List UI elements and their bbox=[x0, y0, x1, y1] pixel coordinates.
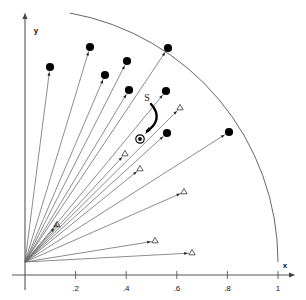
data-point-filled-circle-5 bbox=[164, 44, 172, 52]
polar-ray-figure: .2.4.6.81 x y S A bbox=[0, 0, 306, 300]
ray-line bbox=[25, 94, 127, 262]
y-axis-label: y bbox=[34, 26, 39, 35]
ray-arrowhead bbox=[184, 252, 187, 255]
x-tick-label-3: .8 bbox=[224, 284, 231, 293]
data-point-open-triangle-4 bbox=[181, 188, 187, 193]
x-tick-label-1: .4 bbox=[123, 284, 130, 293]
data-point-open-triangle-3 bbox=[177, 104, 183, 109]
markers-layer bbox=[46, 43, 233, 255]
ray-line bbox=[25, 193, 181, 262]
data-point-filled-circle-1 bbox=[86, 43, 94, 51]
data-point-filled-circle-8 bbox=[225, 128, 233, 136]
rays-layer bbox=[25, 51, 225, 262]
ray-line bbox=[25, 253, 189, 262]
ray-line bbox=[25, 171, 138, 262]
data-point-filled-circle-2 bbox=[101, 71, 109, 79]
ray-line bbox=[25, 65, 125, 262]
ray-arrowhead bbox=[221, 135, 225, 138]
circled-dot-center bbox=[138, 137, 142, 141]
data-point-filled-circle-3 bbox=[123, 57, 131, 65]
data-point-open-triangle-5 bbox=[152, 237, 158, 242]
a-label: A bbox=[53, 221, 58, 229]
data-point-filled-circle-0 bbox=[46, 63, 54, 71]
x-axis-ticks: .2.4.6.81 bbox=[72, 271, 281, 293]
x-tick-label-2: .6 bbox=[173, 284, 180, 293]
x-tick-label-4: 1 bbox=[276, 284, 281, 293]
ray-arrowhead bbox=[162, 52, 165, 56]
data-point-filled-circle-7 bbox=[163, 129, 171, 137]
axes-group: .2.4.6.81 x y bbox=[12, 16, 292, 293]
data-point-open-triangle-1 bbox=[122, 150, 128, 155]
ray-line bbox=[25, 134, 225, 262]
data-point-open-triangle-6 bbox=[189, 249, 195, 254]
unit-arc bbox=[70, 13, 278, 262]
ray-line bbox=[25, 94, 163, 262]
data-point-filled-circle-6 bbox=[162, 87, 170, 95]
circled-dot-marker bbox=[136, 135, 144, 143]
ray-arrowhead bbox=[147, 241, 151, 244]
s-label: S bbox=[144, 92, 150, 103]
x-axis-label: x bbox=[283, 261, 288, 270]
data-point-filled-circle-4 bbox=[125, 86, 133, 94]
ray-arrowhead bbox=[86, 52, 89, 56]
plot-canvas: .2.4.6.81 x y S A bbox=[0, 0, 306, 300]
ray-line bbox=[25, 51, 166, 262]
x-tick-label-0: .2 bbox=[72, 284, 79, 293]
data-point-open-triangle-2 bbox=[137, 165, 143, 170]
